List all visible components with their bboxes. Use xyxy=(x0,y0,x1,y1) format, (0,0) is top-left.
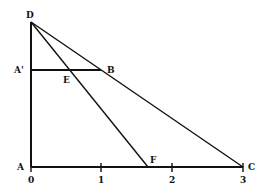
label-A-prime: A' xyxy=(13,65,24,75)
tick-label-0: 0 xyxy=(28,175,34,185)
segment-DF xyxy=(31,22,148,167)
tick-label-1: 1 xyxy=(98,175,104,185)
diagram-canvas: D A' E B A F C 0 1 2 3 xyxy=(0,0,270,196)
tick-label-3: 3 xyxy=(240,175,246,185)
label-B: B xyxy=(107,65,115,75)
label-F: F xyxy=(150,155,157,165)
tick-label-2: 2 xyxy=(169,175,175,185)
label-D: D xyxy=(26,10,34,20)
label-C: C xyxy=(248,162,255,172)
label-A: A xyxy=(16,162,25,172)
segment-DC xyxy=(31,22,243,167)
label-E: E xyxy=(63,75,70,85)
